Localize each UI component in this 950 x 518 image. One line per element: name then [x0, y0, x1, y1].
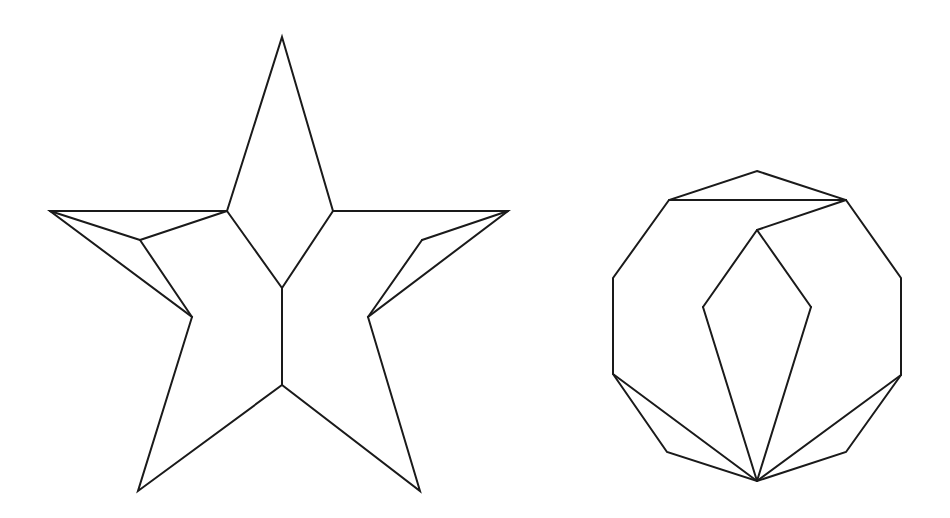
star-dissection-cut-line: [227, 211, 282, 288]
star-dissection-cut-line: [140, 240, 192, 317]
diagram-canvas: [0, 0, 950, 518]
diagram-svg: [0, 0, 950, 518]
decagon-dissection-cut-line: [613, 374, 757, 481]
star-dissection-outline: [50, 37, 508, 491]
star-dissection-cut-line: [282, 211, 333, 288]
decagon-dissection-outline: [613, 171, 901, 481]
decagon-dissection: [613, 171, 901, 481]
star-dissection-cut-line: [422, 211, 508, 240]
decagon-dissection-cut-line: [757, 307, 811, 481]
decagon-dissection-cut-line: [703, 230, 757, 307]
decagon-dissection-cut-line: [703, 307, 757, 481]
star-dissection-cut-line: [50, 211, 140, 240]
decagon-dissection-cut-line: [757, 200, 846, 230]
decagon-dissection-cut-line: [757, 375, 901, 481]
star-dissection: [50, 37, 508, 491]
star-dissection-cut-line: [368, 240, 422, 317]
star-dissection-cut-line: [140, 211, 227, 240]
decagon-dissection-cut-line: [757, 230, 811, 307]
